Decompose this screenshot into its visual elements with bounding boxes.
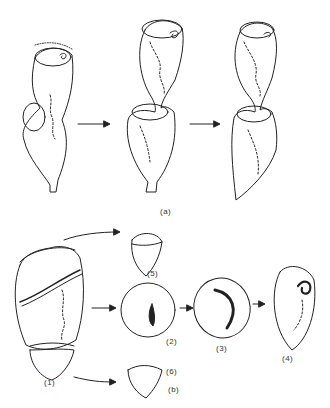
label-6: (6)	[166, 367, 177, 376]
figure: (a) (5) (2) (3) (4) (1) (6) (b)	[0, 0, 330, 408]
fragment-6	[128, 366, 162, 399]
label-1: (1)	[44, 378, 55, 387]
fragment-4	[274, 266, 315, 350]
label-5: (5)	[147, 269, 158, 278]
label-2: (2)	[166, 337, 177, 346]
label-3: (3)	[216, 344, 227, 353]
label-4: (4)	[282, 354, 293, 363]
panel-a-label: (a)	[160, 207, 171, 216]
fragment-3	[187, 272, 257, 344]
cell-a2	[127, 20, 183, 192]
figure-drawing	[0, 0, 330, 408]
cell-a1	[23, 43, 73, 192]
fragment-2	[121, 283, 175, 337]
fragment-1	[15, 247, 83, 380]
panel-b-label: (b)	[168, 385, 179, 394]
cell-a3	[232, 22, 277, 200]
